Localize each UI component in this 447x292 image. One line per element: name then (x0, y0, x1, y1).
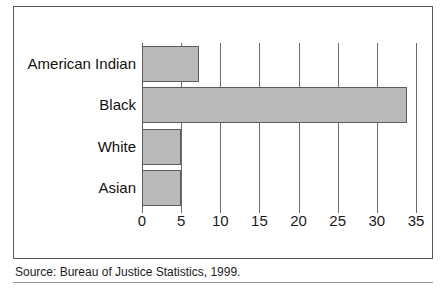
gridline-20 (299, 43, 300, 209)
x-tick-label: 10 (212, 213, 229, 229)
x-tick-label: 20 (290, 213, 307, 229)
x-tick-label: 15 (251, 213, 268, 229)
gridline-30 (377, 43, 378, 209)
bar (142, 46, 199, 82)
x-tick-label: 0 (138, 213, 146, 229)
plot-area: 05101520253035 (142, 43, 418, 209)
figure: American IndianBlackWhiteAsian 051015202… (0, 0, 447, 292)
x-tick-label: 25 (329, 213, 346, 229)
category-label: American Indian (28, 56, 136, 72)
bar (142, 170, 181, 206)
gridline-35 (416, 43, 417, 209)
bar (142, 87, 407, 123)
gridline-10 (220, 43, 221, 209)
category-axis-labels: American IndianBlackWhiteAsian (20, 43, 136, 209)
category-label: Black (99, 97, 136, 113)
source-row: Source: Bureau of Justice Statistics, 19… (13, 265, 433, 289)
category-label: Asian (98, 180, 136, 196)
gridline-25 (338, 43, 339, 209)
bar (142, 129, 181, 165)
category-label: White (98, 139, 136, 155)
x-tick-label: 30 (369, 213, 386, 229)
x-tick-label: 5 (177, 213, 185, 229)
x-tick-label: 35 (408, 213, 425, 229)
gridline-15 (259, 43, 260, 209)
source-note: Source: Bureau of Justice Statistics, 19… (15, 265, 240, 279)
chart-frame: American IndianBlackWhiteAsian 051015202… (13, 6, 433, 259)
source-divider (13, 282, 433, 283)
